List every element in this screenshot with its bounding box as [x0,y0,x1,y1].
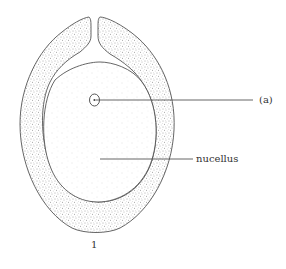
figure-number: 1 [91,239,97,250]
nucellus [44,62,156,202]
ovule-diagram: (a) nucellus 1 [0,0,286,269]
label-nucellus: nucellus [196,153,238,164]
label-a: (a) [259,94,273,105]
